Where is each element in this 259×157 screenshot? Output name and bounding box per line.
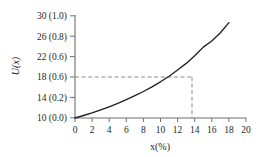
x-tick-label-16: 16 — [207, 125, 217, 135]
x-tick-label-14: 14 — [190, 125, 200, 135]
x-tick-label-8: 8 — [141, 125, 146, 135]
y-tick-label-14: 14 (0.2) — [37, 93, 67, 104]
y-tick-label-26: 26 (0.8) — [37, 32, 67, 43]
y-tick-label-10: 10 (0.0) — [37, 113, 67, 124]
x-tick-label-12: 12 — [173, 125, 183, 135]
x-tick-label-6: 6 — [124, 125, 129, 135]
y-axis-title: U(x) — [10, 56, 22, 75]
x-tick-label-4: 4 — [107, 125, 112, 135]
y-tick-label-22: 22 (0.6) — [37, 52, 67, 63]
x-tick-label-20: 20 — [241, 125, 251, 135]
utility-curve-chart: 30 (1.0) 26 (0.8) 22 (0.6) 18 (0.6) 14 (… — [0, 0, 259, 157]
x-tick-label-2: 2 — [90, 125, 95, 135]
x-axis-title: x(%) — [150, 141, 170, 153]
x-tick-label-10: 10 — [156, 125, 166, 135]
y-tick-label-30: 30 (1.0) — [37, 11, 67, 22]
x-tick-label-18: 18 — [224, 125, 234, 135]
x-tick-label-0: 0 — [73, 125, 78, 135]
y-tick-label-18: 18 (0.6) — [37, 72, 67, 83]
chart-container: 30 (1.0) 26 (0.8) 22 (0.6) 18 (0.6) 14 (… — [0, 0, 259, 157]
